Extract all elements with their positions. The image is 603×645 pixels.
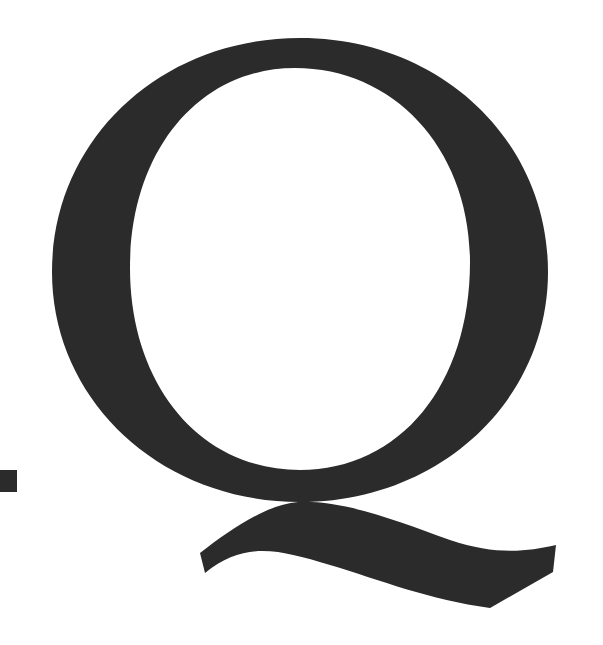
letter-q-graphic: [0, 0, 603, 645]
left-glyph-fragment: [0, 470, 17, 492]
q-bowl: [52, 38, 548, 502]
letter-q-scan: Q: [0, 0, 603, 645]
q-tail: [200, 502, 556, 608]
